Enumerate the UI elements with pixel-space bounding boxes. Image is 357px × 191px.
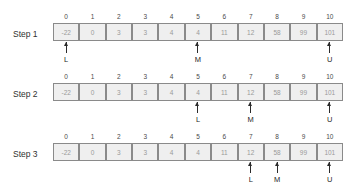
index-label: 9	[290, 132, 316, 142]
array-cell: 99	[290, 83, 316, 101]
array-cell: 4	[185, 23, 211, 41]
index-label: 2	[106, 72, 132, 82]
array-cell: 99	[290, 23, 316, 41]
index-label: 9	[290, 12, 316, 22]
pointer-l: L	[53, 42, 79, 72]
index-label: 4	[158, 132, 184, 142]
index-label: 2	[106, 12, 132, 22]
step-row: Step 2012345678910-220334411125899101LMU	[0, 72, 357, 132]
array-cell: 11	[211, 143, 237, 161]
pointer-l: L	[238, 162, 264, 191]
index-label: 9	[290, 72, 316, 82]
pointer-shaft	[66, 42, 67, 53]
pointer-label: M	[238, 115, 264, 124]
pointer-m: M	[238, 102, 264, 132]
array-cell: 12	[238, 143, 264, 161]
array-cell: 4	[185, 143, 211, 161]
index-label: 6	[211, 72, 237, 82]
array-cell: -22	[53, 23, 79, 41]
index-label: 8	[264, 72, 290, 82]
index-label: 5	[185, 12, 211, 22]
array-cell: 3	[132, 143, 158, 161]
pointer-shaft	[329, 162, 330, 173]
pointer-label: U	[317, 115, 343, 124]
step-label: Step 2	[13, 89, 51, 99]
array-cell: 12	[238, 23, 264, 41]
array-cell: 11	[211, 83, 237, 101]
array-cell: 3	[106, 23, 132, 41]
binary-search-diagram: Step 1012345678910-220334411125899101LMU…	[0, 0, 357, 191]
array-cell: 3	[132, 83, 158, 101]
pointer-label: M	[185, 55, 211, 64]
index-label: 1	[79, 12, 105, 22]
array-cell: 3	[106, 83, 132, 101]
array-cell: 99	[290, 143, 316, 161]
array-cell: 4	[158, 83, 184, 101]
pointer-shaft	[197, 42, 198, 53]
array-cell: 101	[317, 23, 343, 41]
index-label: 2	[106, 132, 132, 142]
step-row: Step 1012345678910-220334411125899101LMU	[0, 12, 357, 72]
index-label: 10	[317, 72, 343, 82]
index-label: 10	[317, 12, 343, 22]
array-cell: 4	[158, 23, 184, 41]
index-axis: 012345678910	[53, 132, 343, 143]
pointer-shaft	[277, 162, 278, 173]
pointer-label: L	[185, 115, 211, 124]
index-label: 5	[185, 132, 211, 142]
pointer-label: L	[53, 55, 79, 64]
array-cells: -220334411125899101	[53, 83, 343, 102]
index-label: 6	[211, 132, 237, 142]
pointer-layer: LMU	[53, 42, 343, 72]
index-label: 5	[185, 72, 211, 82]
pointer-shaft	[197, 102, 198, 113]
index-label: 0	[53, 72, 79, 82]
index-label: 10	[317, 132, 343, 142]
array-cell: 12	[238, 83, 264, 101]
pointer-u: U	[317, 42, 343, 72]
pointer-shaft	[250, 162, 251, 173]
pointer-label: L	[238, 175, 264, 184]
array-cell: 3	[106, 143, 132, 161]
pointer-m: M	[264, 162, 290, 191]
array-cell: 0	[79, 83, 105, 101]
index-label: 7	[238, 132, 264, 142]
array-cell: 101	[317, 83, 343, 101]
array-cell: 4	[158, 143, 184, 161]
pointer-shaft	[329, 42, 330, 53]
pointer-label: U	[317, 175, 343, 184]
pointer-layer: LMU	[53, 162, 343, 191]
index-label: 3	[132, 12, 158, 22]
array-cell: 0	[79, 23, 105, 41]
pointer-layer: LMU	[53, 102, 343, 132]
index-label: 7	[238, 12, 264, 22]
index-label: 3	[132, 132, 158, 142]
array-cell: 58	[264, 83, 290, 101]
index-label: 8	[264, 12, 290, 22]
index-label: 0	[53, 12, 79, 22]
pointer-u: U	[317, 162, 343, 191]
pointer-shaft	[329, 102, 330, 113]
step-label: Step 1	[13, 29, 51, 39]
pointer-label: U	[317, 55, 343, 64]
index-label: 0	[53, 132, 79, 142]
pointer-shaft	[250, 102, 251, 113]
array-cell: 58	[264, 143, 290, 161]
step-label: Step 3	[13, 149, 51, 159]
index-label: 4	[158, 72, 184, 82]
array-cell: -22	[53, 83, 79, 101]
array-cell: 3	[132, 23, 158, 41]
index-label: 4	[158, 12, 184, 22]
array-cell: 0	[79, 143, 105, 161]
index-label: 1	[79, 72, 105, 82]
array-cell: 4	[185, 83, 211, 101]
array-cells: -220334411125899101	[53, 143, 343, 162]
array-cell: -22	[53, 143, 79, 161]
index-label: 6	[211, 12, 237, 22]
index-label: 7	[238, 72, 264, 82]
index-label: 1	[79, 132, 105, 142]
array-cell: 11	[211, 23, 237, 41]
step-row: Step 3012345678910-220334411125899101LMU	[0, 132, 357, 191]
pointer-label: M	[264, 175, 290, 184]
pointer-u: U	[317, 102, 343, 132]
